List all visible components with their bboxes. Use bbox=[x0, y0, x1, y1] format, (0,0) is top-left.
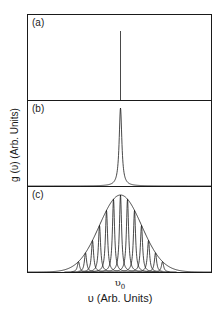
y-axis-label: g (υ) (Arb. Units) bbox=[9, 108, 20, 182]
panel-label-c: (c) bbox=[32, 190, 44, 200]
x-tick-sub: 0 bbox=[121, 283, 125, 291]
component-line-c bbox=[149, 262, 177, 272]
x-tick-v0: υ0 bbox=[115, 277, 126, 291]
component-line-c bbox=[72, 253, 100, 272]
component-line-c bbox=[65, 262, 93, 272]
plot-canvas bbox=[0, 0, 221, 319]
x-axis-label: υ (Arb. Units) bbox=[88, 292, 153, 304]
line-shape-figure: (a) (b) (c) g (υ) (Arb. Units) υ0 υ (Arb… bbox=[0, 0, 221, 319]
lorentzian-curve-b bbox=[28, 108, 211, 186]
panel-label-b: (b) bbox=[32, 104, 44, 114]
component-line-c bbox=[142, 253, 170, 272]
panel-label-a: (a) bbox=[32, 18, 44, 28]
